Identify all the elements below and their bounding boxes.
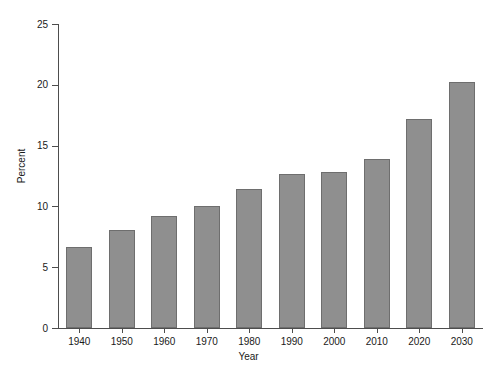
x-axis-title: Year xyxy=(0,351,497,363)
y-tick: 10 xyxy=(52,206,58,207)
y-tick: 15 xyxy=(52,146,58,147)
y-tick: 20 xyxy=(52,85,58,86)
y-tick: 0 xyxy=(52,328,58,329)
bar xyxy=(406,119,432,328)
y-tick-mark xyxy=(52,146,58,147)
y-tick-mark xyxy=(52,206,58,207)
y-tick-label: 20 xyxy=(37,80,48,90)
bar xyxy=(279,174,305,328)
bar xyxy=(109,230,135,328)
x-tick-mark xyxy=(419,328,420,333)
x-tick-mark xyxy=(249,328,250,333)
x-tick-mark xyxy=(79,328,80,333)
bar xyxy=(66,247,92,328)
y-axis-line xyxy=(58,24,59,329)
bar xyxy=(364,159,390,328)
bar xyxy=(321,172,347,328)
x-tick-label: 2020 xyxy=(398,336,441,347)
bar xyxy=(151,216,177,328)
bar-chart: 0510152025 19401950196019701980199020002… xyxy=(0,0,497,371)
x-tick-label: 1960 xyxy=(143,336,186,347)
y-tick: 5 xyxy=(52,267,58,268)
y-tick-mark xyxy=(52,267,58,268)
x-tick-label: 2000 xyxy=(313,336,356,347)
x-tick-label: 2030 xyxy=(441,336,484,347)
y-tick-mark xyxy=(52,85,58,86)
x-tick-mark xyxy=(462,328,463,333)
y-tick-label: 5 xyxy=(42,263,48,273)
x-tick-label: 1940 xyxy=(58,336,101,347)
bar xyxy=(194,206,220,328)
x-tick-mark xyxy=(292,328,293,333)
y-axis-title: Percent xyxy=(16,136,28,196)
y-tick: 25 xyxy=(52,24,58,25)
x-tick-label: 1980 xyxy=(228,336,271,347)
x-tick-mark xyxy=(334,328,335,333)
bar xyxy=(449,82,475,328)
x-tick-label: 1970 xyxy=(186,336,229,347)
x-tick-label: 2010 xyxy=(356,336,399,347)
y-tick-label: 15 xyxy=(37,141,48,151)
x-tick-label: 1990 xyxy=(271,336,314,347)
x-tick-mark xyxy=(207,328,208,333)
y-tick-label: 0 xyxy=(42,324,48,334)
y-tick-mark xyxy=(52,24,58,25)
bar xyxy=(236,189,262,328)
y-tick-label: 25 xyxy=(37,20,48,30)
y-tick-mark xyxy=(52,328,58,329)
y-tick-label: 10 xyxy=(37,202,48,212)
x-tick-mark xyxy=(377,328,378,333)
x-tick-mark xyxy=(164,328,165,333)
x-tick-label: 1950 xyxy=(101,336,144,347)
x-tick-mark xyxy=(122,328,123,333)
